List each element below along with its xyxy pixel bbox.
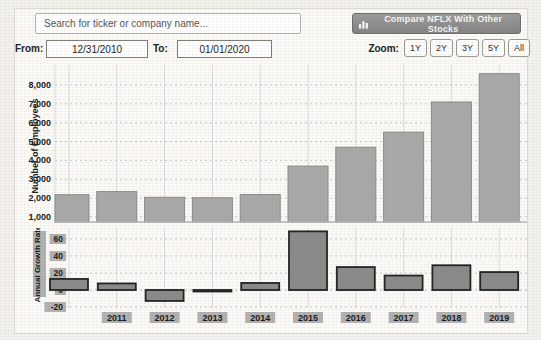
x-year-label-2011: 2011 (107, 313, 127, 323)
from-label: From: (15, 43, 43, 54)
employees-bar-2012[interactable] (145, 197, 185, 222)
y-tick-label: 8,000 (28, 80, 51, 90)
to-label: To: (153, 43, 168, 54)
zoom-5y-button[interactable]: 5Y (482, 39, 505, 57)
x-year-label-2012: 2012 (155, 313, 175, 323)
compare-stocks-button[interactable]: Compare NFLX With Other Stocks (352, 13, 521, 34)
y-tick-label: 1,000 (28, 212, 51, 222)
y-tick-label: 2,000 (28, 193, 51, 203)
zoom-2y-button[interactable]: 2Y (430, 39, 453, 57)
employees-bar-2015[interactable] (288, 166, 328, 222)
growth-bar-2012[interactable] (146, 290, 184, 301)
from-date-input[interactable] (46, 40, 148, 58)
compare-stocks-label: Compare NFLX With Other Stocks (372, 14, 514, 34)
growth-bar-2013[interactable] (193, 290, 231, 292)
growth-bar-2018[interactable] (432, 265, 470, 290)
employees-bar-2014[interactable] (240, 195, 280, 222)
employees-bar-2017[interactable] (384, 132, 424, 222)
bar-chart-icon (359, 19, 368, 29)
growth-bar-2015[interactable] (289, 231, 327, 290)
employees-bar-2011[interactable] (97, 192, 137, 222)
to-date-input[interactable] (177, 40, 272, 58)
employees-chart: 1,0002,0003,0004,0005,0006,0007,0008,000… (0, 62, 541, 228)
x-year-label-2015: 2015 (298, 313, 318, 323)
employees-ylabel: Number of Employees (30, 98, 40, 193)
employees-bar-2018[interactable] (431, 102, 471, 222)
employees-bar-2019[interactable] (479, 74, 519, 222)
x-year-label-2018: 2018 (441, 313, 461, 323)
x-year-label-2013: 2013 (202, 313, 222, 323)
employees-bar-2010[interactable] (55, 195, 89, 222)
x-year-label-2014: 2014 (250, 313, 270, 323)
x-year-label-2016: 2016 (346, 313, 366, 323)
y-tick-label: 40 (54, 251, 64, 261)
zoom-3y-button[interactable]: 3Y (456, 39, 479, 57)
growth-ylabel: Annual Growth Rate (33, 228, 42, 302)
y-tick-label: 60 (54, 234, 64, 244)
growth-bar-2017[interactable] (385, 276, 423, 290)
zoom-label: Zoom: (368, 43, 399, 54)
growth-bar-2011[interactable] (98, 283, 136, 290)
employees-bar-2013[interactable] (192, 198, 232, 222)
x-year-label-2019: 2019 (489, 313, 509, 323)
search-input[interactable] (35, 13, 301, 34)
employees-bar-2016[interactable] (336, 147, 376, 222)
zoom-all-button[interactable]: All (508, 39, 530, 57)
growth-chart: 6040200-20201120122013201420152016201720… (0, 228, 541, 340)
growth-bar-2010[interactable] (50, 279, 88, 290)
zoom-button-group: Zoom: 1Y2Y3Y5YAll (368, 39, 530, 57)
growth-bar-2016[interactable] (337, 267, 375, 290)
growth-bar-2019[interactable] (480, 272, 518, 290)
growth-bar-2014[interactable] (241, 283, 279, 290)
x-year-label-2017: 2017 (394, 313, 414, 323)
zoom-1y-button[interactable]: 1Y (404, 39, 427, 57)
y-tick-label: 20 (54, 268, 64, 278)
y-tick-label: -20 (51, 302, 64, 312)
